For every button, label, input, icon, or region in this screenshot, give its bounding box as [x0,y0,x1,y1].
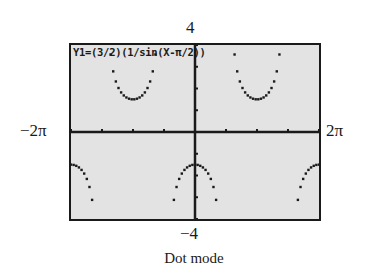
xmin-label: −2π [20,122,47,139]
ymin-label: −4 [180,225,198,242]
caption: Dot mode [0,250,368,267]
equation-label: Y1=(3/2)(1/sin(X-π/2)) [73,46,205,58]
calculator-graph-screen: Y1=(3/2)(1/sin(X-π/2)) [69,43,321,221]
ymax-label: 4 [186,19,195,36]
graph-plot [71,45,319,219]
xmax-label: 2π [326,122,343,139]
